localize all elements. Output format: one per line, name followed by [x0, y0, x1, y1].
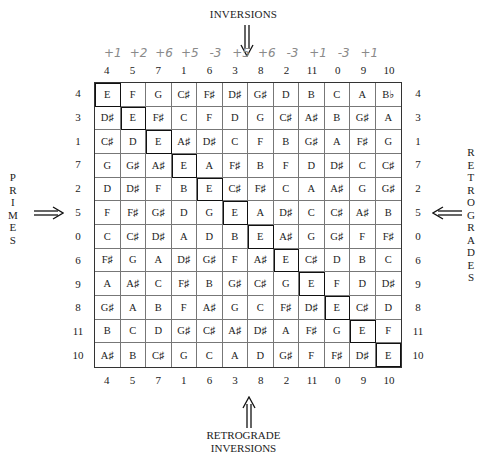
matrix-cell: C — [146, 272, 172, 296]
primes-letter: P — [10, 171, 16, 184]
column-number: 3 — [222, 64, 248, 76]
matrix-cell: A — [274, 320, 300, 344]
retrograde-inversions-line1: RETROGRADE — [0, 429, 487, 442]
matrix-cell-diagonal: E — [121, 107, 147, 131]
matrix-cell: A — [248, 201, 274, 225]
row-number: 0 — [66, 225, 90, 249]
matrix-cell: C♯ — [248, 272, 274, 296]
matrix-cell: F — [95, 201, 121, 225]
matrix-cell: G — [95, 154, 121, 178]
matrix-cell: F♯ — [197, 83, 223, 107]
matrix-cell: D — [376, 296, 402, 320]
retrogrades-letter: R — [467, 221, 474, 234]
matrix-cell: D — [197, 225, 223, 249]
matrix-cell: G — [172, 343, 198, 367]
matrix-cell: F — [121, 83, 147, 107]
column-number: 5 — [120, 374, 146, 386]
matrix-cell: G — [350, 178, 376, 202]
retrogrades-letter: R — [467, 146, 474, 159]
row-numbers-left: 43172506981110 — [66, 82, 90, 368]
matrix-cell: B — [146, 296, 172, 320]
matrix-cell: G — [197, 201, 223, 225]
matrix-cell: B — [95, 320, 121, 344]
matrix-cell: C♯ — [146, 343, 172, 367]
matrix-cell: A — [172, 225, 198, 249]
matrix-cell: F♯ — [376, 225, 402, 249]
row-number: 4 — [406, 82, 430, 106]
row-number: 5 — [406, 201, 430, 225]
matrix-cell: A — [197, 154, 223, 178]
retrogrades-letter: D — [467, 246, 475, 259]
matrix-cell: G♯ — [172, 320, 198, 344]
primes-letter: I — [11, 196, 15, 209]
row-numbers-right: 43172506981110 — [406, 82, 430, 368]
matrix-cell: D — [121, 130, 147, 154]
matrix-cell-diagonal: E — [325, 296, 351, 320]
row-number: 1 — [406, 130, 430, 154]
matrix-cell-diagonal: E — [274, 249, 300, 273]
matrix-cell: G♯ — [299, 130, 325, 154]
matrix-cell: C — [223, 130, 249, 154]
row-number: 2 — [66, 177, 90, 201]
matrix-cell: F — [350, 225, 376, 249]
row-number: 11 — [406, 320, 430, 344]
matrix-cell: C♯ — [325, 201, 351, 225]
matrix-cell: B — [172, 178, 198, 202]
column-number: 6 — [197, 374, 223, 386]
matrix-cell: G♯ — [248, 83, 274, 107]
matrix-cell: D — [172, 201, 198, 225]
matrix-cell: G — [376, 130, 402, 154]
matrix-cell: F — [172, 296, 198, 320]
row-number: 9 — [66, 273, 90, 297]
matrix-cell-diagonal: E — [223, 201, 249, 225]
matrix-cell: F♯ — [325, 343, 351, 367]
matrix-cell: F — [223, 249, 249, 273]
matrix-cell: F♯ — [95, 249, 121, 273]
row-number: 3 — [66, 106, 90, 130]
matrix-cell: A♯ — [274, 225, 300, 249]
matrix-cell: C — [172, 107, 198, 131]
retrogrades-letter: O — [467, 196, 475, 209]
matrix-cell: A♯ — [299, 107, 325, 131]
retrograde-inversions-line2: INVERSIONS — [0, 442, 487, 455]
column-number: 2 — [274, 374, 300, 386]
matrix-cell: D♯ — [95, 107, 121, 131]
row-number: 6 — [66, 249, 90, 273]
row-number: 11 — [66, 320, 90, 344]
column-numbers-bottom: 45716382110910 — [94, 374, 402, 386]
row-number: 4 — [66, 82, 90, 106]
matrix-cell: D — [325, 249, 351, 273]
matrix-cell: G♯ — [274, 343, 300, 367]
matrix-cell: B — [248, 154, 274, 178]
matrix-cell: F — [146, 178, 172, 202]
column-number: 0 — [325, 374, 351, 386]
matrix-cell: B — [121, 343, 147, 367]
matrix-cell-diagonal: E — [146, 130, 172, 154]
matrix-cell: D — [274, 83, 300, 107]
matrix-cell: B — [350, 249, 376, 273]
matrix-cell: F♯ — [223, 154, 249, 178]
matrix-cell: G♯ — [223, 272, 249, 296]
retrogrades-letter: R — [467, 184, 474, 197]
handwritten-intervals: +1+2+6+5-3+5+6-3+1-3+1 — [100, 46, 400, 60]
matrix-cell: C♯ — [121, 225, 147, 249]
matrix-cell: B — [223, 225, 249, 249]
handwritten-interval: +1 — [100, 46, 126, 60]
matrix-cell: G — [223, 296, 249, 320]
matrix-cell: D♯ — [121, 178, 147, 202]
matrix-cell: C♯ — [274, 107, 300, 131]
column-number: 11 — [299, 374, 325, 386]
retrogrades-letter: G — [467, 209, 475, 222]
matrix-cell: G — [248, 107, 274, 131]
handwritten-interval: +6 — [151, 46, 177, 60]
column-number: 1 — [171, 374, 197, 386]
column-number: 4 — [94, 374, 120, 386]
inversions-label: INVERSIONS — [0, 8, 487, 20]
matrix-cell: G♯ — [95, 296, 121, 320]
matrix-cell: F♯ — [146, 107, 172, 131]
matrix-cell: G — [325, 320, 351, 344]
retrogrades-letter: E — [468, 159, 475, 172]
matrix-cell: G♯ — [197, 249, 223, 273]
matrix-cell: C — [325, 83, 351, 107]
retrogrades-letter: S — [468, 271, 474, 284]
